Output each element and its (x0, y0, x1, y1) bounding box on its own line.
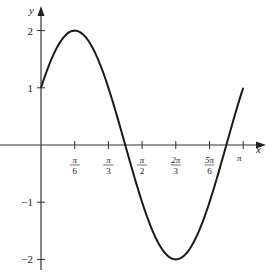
axes (0, 6, 266, 270)
x-tick-denominator: 6 (72, 166, 77, 176)
x-tick-numerator: π (140, 155, 145, 165)
x-axis-label: x (255, 143, 261, 155)
y-tick-label: 2 (28, 25, 34, 37)
x-tick-denominator: 3 (106, 166, 111, 176)
x-tick-denominator: 2 (140, 166, 145, 176)
y-axis-label: y (28, 4, 34, 16)
sine-chart: 21−1−2π6π3π22π35π6π y x (0, 0, 273, 278)
x-tick-label: π (237, 153, 242, 163)
x-tick-denominator: 3 (174, 166, 179, 176)
y-axis-arrow-icon (38, 6, 45, 16)
x-tick-numerator: 2π (171, 155, 181, 165)
x-tick-denominator: 6 (207, 166, 212, 176)
y-tick-label: −2 (21, 253, 33, 265)
y-tick-label: 1 (28, 82, 34, 94)
x-tick-numerator: π (72, 155, 77, 165)
x-tick-numerator: 5π (205, 155, 215, 165)
y-tick-label: −1 (21, 196, 33, 208)
x-tick-numerator: π (106, 155, 111, 165)
